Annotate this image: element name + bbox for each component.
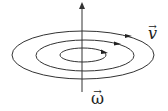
middle-orbit [36, 40, 134, 71]
axis-arrowhead-icon [79, 2, 85, 9]
rotation-diagram: → v → ω [0, 0, 168, 111]
omega-label: → ω [91, 91, 104, 107]
vector-arrow: → [91, 87, 104, 97]
vector-arrow: → [148, 22, 157, 32]
inner-direction-arrow-icon [101, 50, 108, 55]
outer-orbit [12, 31, 154, 79]
inner-orbit [60, 48, 106, 62]
diagram-graphic [0, 0, 168, 111]
velocity-label: → v [148, 26, 157, 42]
